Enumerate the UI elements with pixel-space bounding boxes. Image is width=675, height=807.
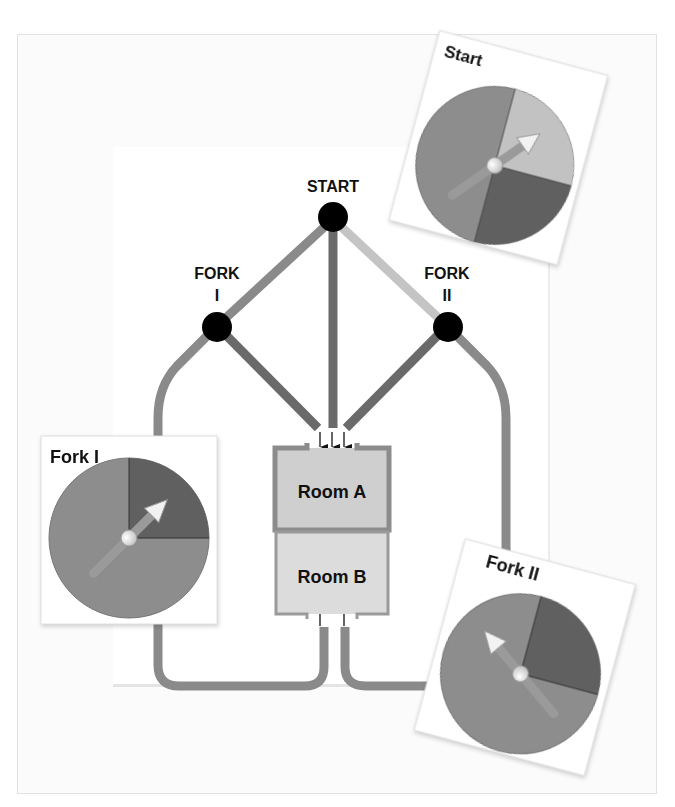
node-start: START [307,178,359,232]
node-fork1: FORK I [194,265,240,342]
fork2-node-label-line1: FORK [424,265,470,282]
spinner-fork1-title: Fork I [50,447,99,467]
spinner-fork1-wheel [49,458,209,618]
path-fork1-to-room-a [217,326,318,428]
spinner-card-start: Start [376,28,618,284]
start-node-label: START [307,178,359,195]
path-fork2-to-room-a [346,326,447,428]
spinner-fork2-wheel [440,594,600,754]
maze-diagram: Room A Room B START FORK I FORK II Start [0,0,675,807]
fork2-node-label-line2: II [443,287,452,304]
fork1-node-label-line1: FORK [194,265,240,282]
room-a: Room A [275,443,389,530]
room-b: Room B [276,532,388,619]
room-b-label: Room B [298,567,367,587]
spinner-card-fork2: Fork II [400,536,645,793]
spinner-start-wheel [416,86,574,244]
room-a-label: Room A [298,482,366,502]
fork1-node-label-line2: I [215,287,219,304]
spinner-card-fork1: Fork I [41,436,217,624]
node-fork2: FORK II [424,265,470,342]
room-a-entry-arrows [320,432,344,447]
